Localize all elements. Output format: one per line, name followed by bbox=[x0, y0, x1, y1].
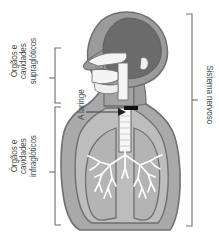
label-infraglottic-line1: Órgãos e bbox=[10, 126, 19, 186]
larynx-marker bbox=[124, 106, 138, 110]
label-supraglottic-line2: cavidades bbox=[19, 31, 28, 91]
bracket-infraglottic bbox=[49, 107, 61, 225]
label-infraglottic-line2: cavidades bbox=[19, 126, 28, 186]
upper-airway-cavities bbox=[88, 53, 128, 100]
label-nervous-system-text: Sistema nervoso bbox=[204, 55, 213, 135]
anatomy-figure: Órgãos e cavidades supraglóticos Órgãos … bbox=[0, 0, 219, 236]
label-larynx: A laringe bbox=[77, 80, 86, 130]
label-supraglottic-line3: supraglóticos bbox=[29, 31, 38, 91]
label-infraglottic: Órgãos e cavidades infraglóticos bbox=[10, 126, 38, 186]
bracket-supraglottic bbox=[49, 48, 61, 103]
label-supraglottic: Órgãos e cavidades supraglóticos bbox=[10, 31, 38, 91]
label-supraglottic-line1: Órgãos e bbox=[10, 31, 19, 91]
label-infraglottic-line3: infraglóticos bbox=[29, 126, 38, 186]
label-larynx-text: A laringe bbox=[77, 80, 86, 130]
bracket-nervous-system bbox=[186, 14, 198, 226]
label-nervous-system: Sistema nervoso bbox=[204, 55, 213, 135]
